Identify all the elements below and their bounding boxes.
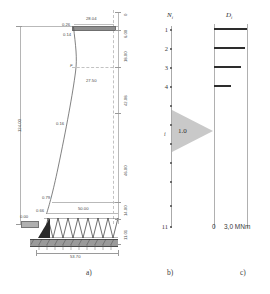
load-node-marker: i [164, 131, 166, 137]
node-dot-10 [170, 205, 172, 207]
right-tick-upper [115, 67, 121, 68]
node-number-4: 4 [158, 83, 168, 90]
node-dot-8 [170, 162, 172, 164]
panel-c-header: Di [226, 11, 232, 20]
right-dim-42-08: 42.08 [124, 96, 128, 106]
panel-c-moment-chart: Di 0 3,0 MNm c) [200, 0, 270, 294]
chart-axis-left [214, 24, 215, 228]
node-dot-9 [170, 181, 172, 183]
base-width-cap-right [118, 250, 119, 256]
node-number-2: 2 [158, 45, 168, 52]
right-tick-middle [115, 113, 121, 114]
chart-axis-right [247, 24, 248, 228]
left-support-block [21, 221, 39, 228]
deflection-label-0-00: 0.00 [20, 215, 28, 219]
node-dot-3 [170, 67, 172, 69]
right-tick-top [115, 12, 121, 13]
right-tick-base [115, 219, 121, 220]
node-dot-11 [170, 226, 172, 228]
moment-bar-2 [214, 47, 245, 49]
base-width-cap-left [36, 250, 37, 256]
lower-span-label: 50.00 [78, 207, 88, 211]
deflection-label-0-66: 0.66 [36, 209, 44, 213]
right-dim-6-00: 6.00 [124, 30, 128, 38]
foundation-wedge [38, 218, 50, 238]
node-dot-5 [170, 105, 172, 107]
right-dim-14-00: 14.00 [124, 206, 128, 216]
right-dim-46-00: 46.00 [124, 166, 128, 176]
unit-load-value: 1.0 [178, 127, 187, 135]
node-dot-2 [170, 48, 172, 50]
chart-axis-zero-label: 0 [212, 223, 216, 230]
moment-bar-1 [214, 28, 247, 30]
force-reference-line [72, 67, 118, 68]
lower-segment-line [52, 202, 118, 203]
panel-a-tower-deflection: 124.00 28.04 0.26 0.14 F 27.50 0.16 0.79… [0, 0, 140, 262]
right-dim-18-00: 18.00 [124, 52, 128, 62]
node-number-3: 3 [158, 64, 168, 71]
moment-bar-3 [214, 66, 241, 68]
panel-b-node-column: Ni 1 2 3 4 11 1.0 i b) [140, 0, 200, 294]
node-dot-4 [170, 86, 172, 88]
chart-axis-max-label: 3,0 MNm [224, 223, 250, 230]
subfigure-label-b: b) [167, 268, 173, 277]
foundation-truss-zigzag [44, 218, 119, 238]
pile-ticks [34, 244, 118, 250]
node-dot-1 [170, 29, 172, 31]
subfigure-label-c: c) [240, 268, 246, 277]
panel-c-header-subscript: i [231, 15, 232, 20]
node-number-1: 1 [158, 26, 168, 33]
base-width-label: 53.70 [70, 255, 80, 259]
node-number-11: 11 [154, 223, 168, 230]
mid-span-label: 27.50 [86, 79, 96, 83]
panel-b-header-subscript: i [172, 15, 173, 20]
deflection-label-0-79: 0.79 [42, 196, 50, 200]
structural-analysis-figure: 124.00 28.04 0.26 0.14 F 27.50 0.16 0.79… [0, 0, 270, 294]
base-segment-line [47, 213, 118, 214]
panel-b-header: Ni [167, 11, 173, 20]
right-tick-bottom [115, 244, 121, 245]
moment-bar-4 [214, 85, 231, 87]
deflection-label-0-16: 0.16 [56, 122, 64, 126]
right-dim-0: 0 [124, 14, 128, 16]
subfigure-label-a: a) [86, 268, 92, 277]
right-dim-11-01: 11.01 [124, 230, 128, 240]
right-tick-beam [115, 30, 121, 31]
right-tick-lower [115, 202, 121, 203]
